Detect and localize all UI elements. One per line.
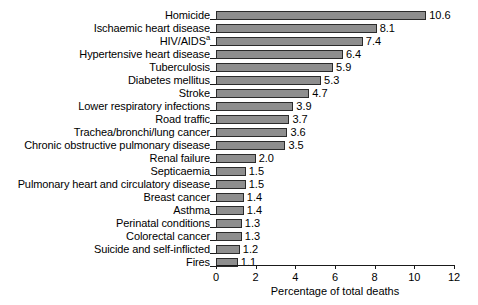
bar xyxy=(216,206,244,215)
bar-value-label: 1.3 xyxy=(242,230,260,243)
bar-value-label: 1.3 xyxy=(242,217,260,230)
chart-row: Suicide and self-inflicted1.2 xyxy=(0,243,478,256)
x-axis-tick xyxy=(414,265,415,269)
bar xyxy=(216,76,321,85)
category-label: Diabetes mellitus xyxy=(128,74,210,87)
category-label: Hypertensive heart disease xyxy=(79,48,210,61)
chart-row: Lower respiratory infections3.9 xyxy=(0,100,478,113)
category-label: Suicide and self-inflicted xyxy=(94,243,210,256)
category-label: Fires xyxy=(186,256,210,269)
chart-row: Renal failure2.0 xyxy=(0,152,478,165)
category-label: Lower respiratory infections xyxy=(78,100,210,113)
category-label: Renal failure xyxy=(150,152,210,165)
category-label: Homicide xyxy=(165,9,210,22)
bar xyxy=(216,63,333,72)
category-label: Ischaemic heart disease xyxy=(94,22,210,35)
footnote-marker: a xyxy=(206,33,210,42)
chart-row: Road traffic3.7 xyxy=(0,113,478,126)
category-label: Trachea/bronchi/lung cancer xyxy=(74,126,210,139)
bar-value-label: 3.5 xyxy=(285,139,303,152)
x-axis-tick-label: 6 xyxy=(332,271,338,283)
bar-value-label: 3.7 xyxy=(289,113,307,126)
category-label: HIV/AIDSa xyxy=(160,35,210,48)
chart-row: Pulmonary heart and circulatory disease1… xyxy=(0,178,478,191)
bar-track xyxy=(216,10,426,21)
bar-value-label: 1.5 xyxy=(246,178,264,191)
category-label: Colorectal cancer xyxy=(126,230,210,243)
category-label: Chronic obstructive pulmonary disease xyxy=(24,139,210,152)
x-axis-tick xyxy=(216,265,217,269)
bar xyxy=(216,115,289,124)
chart-row: Chronic obstructive pulmonary disease3.5 xyxy=(0,139,478,152)
chart-row: Tuberculosis5.9 xyxy=(0,61,478,74)
x-axis-tick-label: 0 xyxy=(213,271,219,283)
bar-value-label: 3.6 xyxy=(287,126,305,139)
category-label: Stroke xyxy=(179,87,210,100)
x-axis-tick xyxy=(375,265,376,269)
bar xyxy=(216,193,244,202)
chart-row: Homicide10.6 xyxy=(0,9,478,22)
bar-track xyxy=(216,36,363,47)
bar xyxy=(216,89,309,98)
bar-chart: Homicide10.6Ischaemic heart disease8.1HI… xyxy=(0,0,478,305)
bar-value-label: 1.5 xyxy=(246,165,264,178)
bar-value-label: 5.3 xyxy=(321,74,339,87)
chart-row: Ischaemic heart disease8.1 xyxy=(0,22,478,35)
chart-row: Perinatal conditions1.3 xyxy=(0,217,478,230)
x-axis-tick-label: 4 xyxy=(292,271,298,283)
bar xyxy=(216,24,377,33)
bar-value-label: 1.4 xyxy=(244,191,262,204)
bar-value-label: 1.2 xyxy=(240,243,258,256)
bar-track xyxy=(216,205,244,216)
bar-value-label: 4.7 xyxy=(309,87,327,100)
bar-track xyxy=(216,153,256,164)
chart-row: Trachea/bronchi/lung cancer3.6 xyxy=(0,126,478,139)
chart-rows: Homicide10.6Ischaemic heart disease8.1HI… xyxy=(0,9,478,269)
bar-track xyxy=(216,49,343,60)
x-axis-tick xyxy=(295,265,296,269)
bar-track xyxy=(216,179,246,190)
category-label: Tuberculosis xyxy=(149,61,210,74)
bar-track xyxy=(216,218,242,229)
bar-track xyxy=(216,88,309,99)
x-axis-tick-label: 12 xyxy=(448,271,460,283)
bar xyxy=(216,154,256,163)
category-label: Asthma xyxy=(173,204,210,217)
bar xyxy=(216,50,343,59)
x-axis-tick-label: 10 xyxy=(408,271,420,283)
bar-value-label: 3.9 xyxy=(293,100,311,113)
bar-track xyxy=(216,192,244,203)
x-axis-title: Percentage of total deaths xyxy=(216,285,454,297)
bar-track xyxy=(216,75,321,86)
bar-track xyxy=(216,114,289,125)
bar-track xyxy=(216,244,240,255)
bar-track xyxy=(216,127,287,138)
chart-row: Diabetes mellitus5.3 xyxy=(0,74,478,87)
bar xyxy=(216,102,293,111)
bar xyxy=(216,37,363,46)
chart-row: Septicaemia1.5 xyxy=(0,165,478,178)
bar-track xyxy=(216,101,293,112)
bar xyxy=(216,141,285,150)
bar-value-label: 1.1 xyxy=(238,256,256,269)
bar-value-label: 10.6 xyxy=(426,9,450,22)
bar-track xyxy=(216,23,377,34)
x-axis-tick xyxy=(454,265,455,269)
x-axis: 024681012 xyxy=(216,265,454,266)
bar-track xyxy=(216,166,246,177)
bar-value-label: 6.4 xyxy=(343,48,361,61)
bar xyxy=(216,232,242,241)
bar-value-label: 1.4 xyxy=(244,204,262,217)
bar xyxy=(216,219,242,228)
x-axis-tick-label: 8 xyxy=(372,271,378,283)
x-axis-tick-label: 2 xyxy=(253,271,259,283)
bar xyxy=(216,180,246,189)
bar-track xyxy=(216,62,333,73)
chart-row: Colorectal cancer1.3 xyxy=(0,230,478,243)
chart-row: Stroke4.7 xyxy=(0,87,478,100)
chart-row: Hypertensive heart disease6.4 xyxy=(0,48,478,61)
category-label: Perinatal conditions xyxy=(116,217,210,230)
bar-track xyxy=(216,231,242,242)
x-axis-tick xyxy=(256,265,257,269)
category-label: Septicaemia xyxy=(151,165,210,178)
